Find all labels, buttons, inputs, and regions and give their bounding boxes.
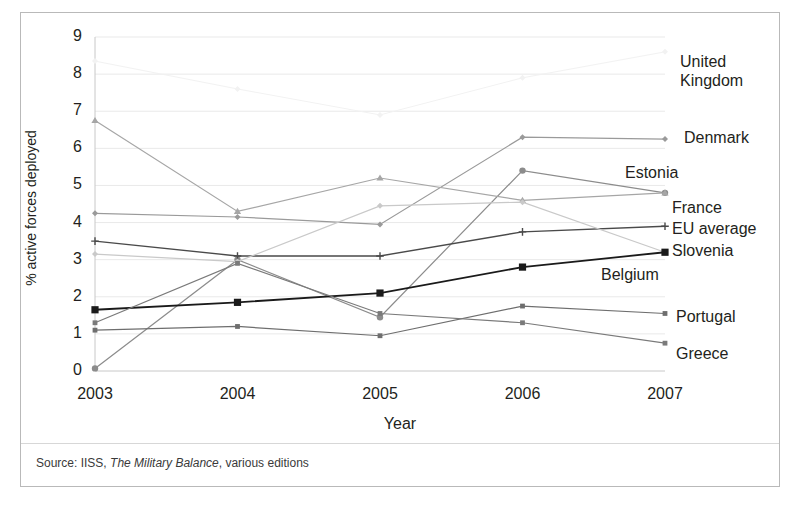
data-point-marker <box>377 203 383 209</box>
source-note: Source: IISS, The Military Balance, vari… <box>36 456 309 470</box>
series-united-kingdom <box>92 49 668 118</box>
data-point-marker <box>520 304 525 309</box>
series-line <box>95 252 665 310</box>
source-title: The Military Balance <box>110 456 219 470</box>
data-point-marker <box>91 306 98 313</box>
y-tick-label: 8 <box>58 65 82 81</box>
data-point-marker <box>235 324 240 329</box>
series-label-line: Estonia <box>625 163 678 182</box>
x-tick-label: 2006 <box>483 386 563 402</box>
series-portugal <box>93 304 668 338</box>
data-point-marker <box>92 58 98 64</box>
data-point-marker <box>519 167 525 173</box>
y-tick-label: 3 <box>58 251 82 267</box>
series-line <box>95 121 665 212</box>
series-label-france: France <box>672 198 722 217</box>
series-line <box>95 171 665 369</box>
series-label-slovenia: Slovenia <box>672 241 733 260</box>
figure-container: 0123456789 20032004200520062007 % active… <box>0 0 801 505</box>
source-suffix: , various editions <box>219 456 309 470</box>
series-label-line: France <box>672 198 722 217</box>
x-tick-label: 2005 <box>340 386 420 402</box>
data-point-marker <box>520 134 526 140</box>
series-france <box>91 117 668 214</box>
series-label-greece: Greece <box>676 344 728 363</box>
data-point-marker <box>378 311 383 316</box>
data-point-marker <box>661 222 669 230</box>
series-label-united-kingdom: UnitedKingdom <box>680 52 743 90</box>
series-label-portugal: Portugal <box>676 307 736 326</box>
data-point-marker <box>663 311 668 316</box>
data-point-marker <box>520 75 526 81</box>
data-series-group <box>91 49 669 372</box>
x-axis-title: Year <box>320 415 480 433</box>
y-tick-label: 5 <box>58 176 82 192</box>
series-line <box>95 137 665 224</box>
series-line <box>95 226 665 256</box>
y-tick-label: 4 <box>58 214 82 230</box>
data-point-marker <box>235 261 240 266</box>
series-greece <box>93 261 668 346</box>
data-point-marker <box>662 49 668 55</box>
series-estonia <box>92 167 668 371</box>
data-point-marker <box>376 174 383 180</box>
data-point-marker <box>661 249 668 256</box>
data-point-marker <box>91 117 98 123</box>
data-point-marker <box>377 112 383 118</box>
data-point-marker <box>92 251 98 257</box>
series-label-line: Denmark <box>684 128 749 147</box>
data-point-marker <box>91 237 99 245</box>
y-tick-label: 9 <box>58 28 82 44</box>
data-point-marker <box>234 299 241 306</box>
series-label-line: Greece <box>676 344 728 363</box>
data-point-marker <box>376 289 383 296</box>
x-tick-label: 2007 <box>625 386 705 402</box>
y-tick-label: 0 <box>58 362 82 378</box>
source-prefix: Source: IISS, <box>36 456 110 470</box>
series-label-line: EU average <box>672 219 757 238</box>
series-label-estonia: Estonia <box>625 163 678 182</box>
series-label-belgium: Belgium <box>601 265 659 284</box>
data-point-marker <box>235 214 241 220</box>
data-point-marker <box>662 136 668 142</box>
y-tick-label: 6 <box>58 139 82 155</box>
series-label-eu-average: EU average <box>672 219 757 238</box>
y-tick-label: 1 <box>58 325 82 341</box>
y-tick-label: 7 <box>58 102 82 118</box>
data-point-marker <box>235 86 241 92</box>
series-label-line: Belgium <box>601 265 659 284</box>
data-point-marker <box>376 252 384 260</box>
series-label-line: United <box>680 52 743 71</box>
y-tick-label: 2 <box>58 288 82 304</box>
data-point-marker <box>93 328 98 333</box>
data-point-marker <box>663 341 668 346</box>
series-line <box>95 52 665 115</box>
series-label-line: Kingdom <box>680 71 743 90</box>
series-eu-average <box>91 222 669 259</box>
data-point-marker <box>93 320 98 325</box>
data-point-marker <box>519 263 526 270</box>
source-divider <box>21 443 779 444</box>
data-point-marker <box>378 333 383 338</box>
y-axis-title: % active forces deployed <box>23 103 39 313</box>
data-point-marker <box>519 228 527 236</box>
series-label-line: Slovenia <box>672 241 733 260</box>
series-label-denmark: Denmark <box>684 128 749 147</box>
x-tick-label: 2003 <box>55 386 135 402</box>
data-point-marker <box>92 365 98 371</box>
data-point-marker <box>92 210 98 216</box>
series-label-line: Portugal <box>676 307 736 326</box>
data-point-marker <box>520 320 525 325</box>
x-tick-label: 2004 <box>198 386 278 402</box>
